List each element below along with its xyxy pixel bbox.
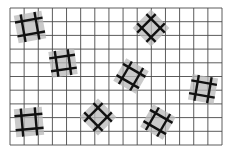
grid-diagram [0,0,234,153]
tile-fill [14,107,44,137]
shaded-tile [14,11,46,43]
shaded-tile [140,104,176,140]
tile-fill [14,11,46,43]
tile-fill [48,48,77,77]
tile-fill [188,74,218,104]
shaded-tile [113,58,149,94]
tile-fill [133,10,170,47]
shaded-tile [188,74,218,104]
shaded-tile [14,107,44,137]
grid-canvas [0,0,234,153]
rotated-tiles [14,10,218,140]
shaded-tile [48,48,77,77]
shaded-tile [133,10,170,47]
